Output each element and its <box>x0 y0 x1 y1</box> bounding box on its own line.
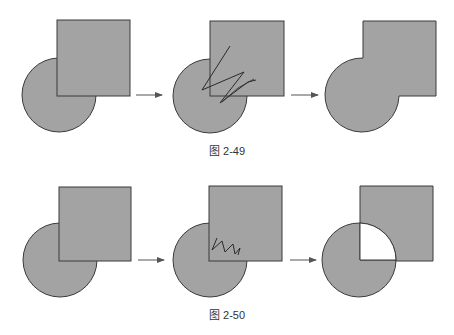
square-shape <box>210 21 284 96</box>
union-shape <box>325 21 436 132</box>
fig49-step2-scribble <box>173 21 284 133</box>
square-shape <box>57 20 130 96</box>
fig49-step3-union <box>325 21 436 132</box>
fig50-step2-zigzag <box>173 186 282 297</box>
figure-caption-2-49: 图 2-49 <box>177 142 277 158</box>
diagram-canvas <box>0 0 454 335</box>
square-shape <box>209 186 282 261</box>
fig50-step3-exclusion <box>322 186 433 297</box>
figure-2-50 <box>23 186 433 297</box>
figure-2-49 <box>22 20 436 133</box>
fig50-step1-square-over-circle <box>23 187 131 297</box>
square-shape <box>59 187 131 261</box>
figure-caption-2-50: 图 2-50 <box>177 306 277 322</box>
fig49-step1-square-over-circle <box>22 20 130 132</box>
